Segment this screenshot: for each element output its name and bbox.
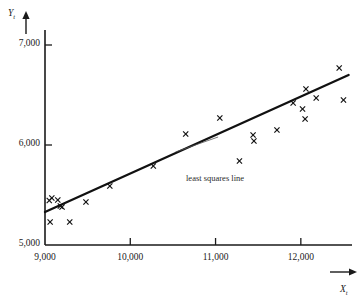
axes-group	[22, 11, 357, 276]
data-point	[274, 127, 279, 132]
x-tick-label: 9,000	[15, 252, 75, 262]
data-point	[314, 95, 319, 100]
data-point	[49, 195, 54, 200]
least-squares-line	[45, 75, 349, 212]
data-point	[48, 219, 53, 224]
data-point	[83, 199, 88, 204]
data-point	[341, 97, 346, 102]
data-point	[237, 158, 242, 163]
data-point	[251, 138, 256, 143]
data-point	[183, 131, 188, 136]
y-tick-label: 6,000	[0, 138, 40, 148]
data-point	[250, 132, 255, 137]
x-axis-label: Xt	[340, 284, 348, 296]
y-tick-label: 7,000	[0, 38, 40, 48]
data-point	[303, 86, 308, 91]
data-point	[302, 116, 307, 121]
data-point	[107, 183, 112, 188]
scatter-chart: Yt Xt 5,0006,0007,000 9,00010,00011,0001…	[0, 0, 362, 304]
data-point	[217, 115, 222, 120]
least-squares-line-annotation: least squares line	[186, 173, 244, 183]
annotation-leader-line	[175, 137, 218, 152]
data-point	[337, 65, 342, 70]
y-tick-label: 5,000	[0, 238, 40, 248]
data-point	[67, 219, 72, 224]
x-tick-label: 10,000	[100, 252, 160, 262]
data-point	[55, 197, 60, 202]
data-point	[300, 106, 305, 111]
y-axis-label: Yt	[8, 8, 15, 20]
x-tick-label: 12,000	[271, 252, 331, 262]
x-tick-label: 11,000	[186, 252, 246, 262]
